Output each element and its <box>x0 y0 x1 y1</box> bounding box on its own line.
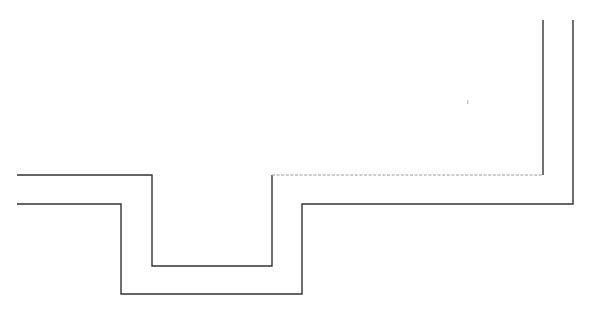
line-drawing-svg <box>0 0 591 313</box>
scan-artifact-speck <box>467 100 468 104</box>
drawing-canvas <box>0 0 591 313</box>
drawing-background <box>0 0 591 313</box>
